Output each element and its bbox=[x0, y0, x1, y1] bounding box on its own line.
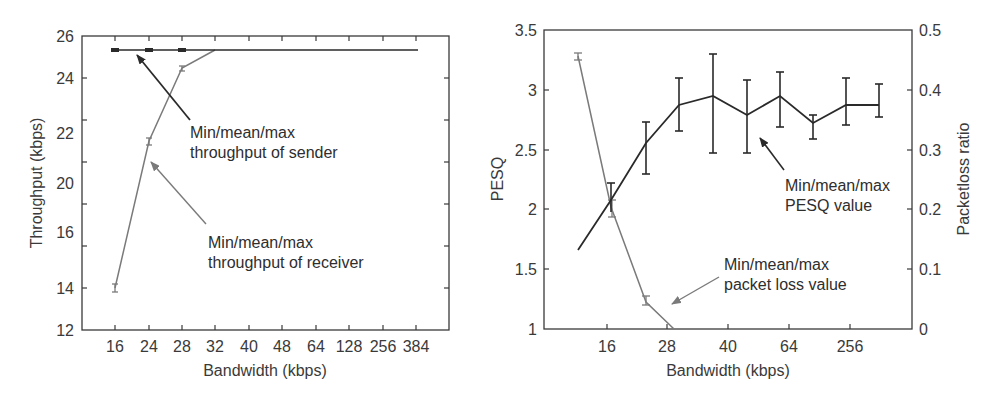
receiver-annotation-line1: Min/mean/max bbox=[208, 234, 313, 251]
x-tick-label: 16 bbox=[106, 338, 124, 355]
y2-tick-label: 0.3 bbox=[919, 142, 941, 159]
x-tick-label: 128 bbox=[336, 338, 363, 355]
packetloss-annotation: Min/mean/max packet loss value bbox=[672, 256, 847, 304]
packetloss-annotation-line1: Min/mean/max bbox=[724, 256, 829, 273]
y-tick-label: 20 bbox=[56, 175, 74, 192]
y2-tick-label: 0.5 bbox=[919, 22, 941, 39]
sender-annotation-line2: throughput of sender bbox=[190, 144, 338, 161]
x-tick-label: 28 bbox=[173, 338, 191, 355]
left-y-tick-labels: 26 24 22 20 16 14 12 bbox=[56, 28, 74, 339]
y2-tick-label: 0.4 bbox=[919, 82, 941, 99]
packetloss-annotation-line2: packet loss value bbox=[724, 276, 847, 293]
sender-annotation: Min/mean/max throughput of sender bbox=[137, 55, 338, 161]
right-x-tick-labels: 16 28 40 64 256 bbox=[598, 338, 863, 355]
right-y-axis-label-pesq: PESQ bbox=[489, 157, 506, 201]
x-tick-label: 24 bbox=[140, 338, 158, 355]
left-plot-frame bbox=[82, 36, 449, 330]
sender-series bbox=[111, 48, 418, 52]
y2-tick-label: 0.2 bbox=[919, 201, 941, 218]
y-tick-label: 26 bbox=[56, 28, 74, 45]
sender-annotation-line1: Min/mean/max bbox=[190, 124, 295, 141]
y-tick-label: 24 bbox=[56, 70, 74, 87]
x-tick-label: 256 bbox=[837, 338, 864, 355]
y-tick-label: 1.5 bbox=[515, 261, 537, 278]
right-y-left-tick-labels: 3.5 3 2.5 2 1.5 1 bbox=[515, 22, 537, 338]
right-x-axis-label: Bandwidth (kbps) bbox=[666, 362, 790, 379]
left-x-ticks bbox=[115, 36, 416, 330]
figure: 26 24 22 20 16 14 12 16 24 28 32 40 48 6… bbox=[0, 0, 993, 404]
y-tick-label: 3 bbox=[528, 82, 537, 99]
pesq-annotation-line1: Min/mean/max bbox=[785, 177, 890, 194]
x-tick-label: 40 bbox=[240, 338, 258, 355]
y-tick-label: 2 bbox=[528, 201, 537, 218]
x-tick-label: 16 bbox=[598, 338, 616, 355]
y-tick-label: 12 bbox=[56, 322, 74, 339]
y-tick-label: 1 bbox=[528, 321, 537, 338]
y-tick-label: 2.5 bbox=[515, 142, 537, 159]
left-chart: 26 24 22 20 16 14 12 16 24 28 32 40 48 6… bbox=[28, 28, 449, 379]
right-chart: 3.5 3 2.5 2 1.5 1 0.5 0.4 0.3 0.2 0.1 0 … bbox=[489, 22, 972, 379]
x-tick-label: 48 bbox=[273, 338, 291, 355]
pesq-series bbox=[578, 54, 883, 250]
right-x-ticks bbox=[607, 324, 850, 329]
receiver-annotation: Min/mean/max throughput of receiver bbox=[151, 162, 364, 271]
y2-tick-label: 0.1 bbox=[919, 261, 941, 278]
left-y-axis-label: Throughput (kbps) bbox=[28, 118, 45, 249]
y-tick-label: 16 bbox=[56, 224, 74, 241]
y2-tick-label: 0 bbox=[919, 321, 928, 338]
y-tick-label: 22 bbox=[56, 125, 74, 142]
x-tick-label: 64 bbox=[307, 338, 325, 355]
x-tick-label: 64 bbox=[780, 338, 798, 355]
right-y-right-tick-labels: 0.5 0.4 0.3 0.2 0.1 0 bbox=[919, 22, 941, 338]
receiver-annotation-line2: throughput of receiver bbox=[208, 254, 364, 271]
left-x-tick-labels: 16 24 28 32 40 48 64 128 256 384 bbox=[106, 338, 429, 355]
right-y-axis-label-packetloss: Packetloss ratio bbox=[955, 122, 972, 235]
packetloss-series bbox=[574, 53, 674, 329]
pesq-annotation-line2: PESQ value bbox=[785, 197, 872, 214]
left-x-axis-label: Bandwidth (kbps) bbox=[203, 362, 327, 379]
y-tick-label: 3.5 bbox=[515, 22, 537, 39]
x-tick-label: 384 bbox=[403, 338, 430, 355]
x-tick-label: 256 bbox=[370, 338, 397, 355]
x-tick-label: 32 bbox=[206, 338, 224, 355]
x-tick-label: 28 bbox=[658, 338, 676, 355]
pesq-annotation: Min/mean/max PESQ value bbox=[760, 138, 890, 214]
y-tick-label: 14 bbox=[56, 280, 74, 297]
x-tick-label: 40 bbox=[719, 338, 737, 355]
